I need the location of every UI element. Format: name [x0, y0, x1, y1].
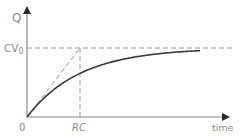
- origin-label: 0: [19, 122, 25, 133]
- charging-curve-diagram: Q CV0 0 RC time: [0, 0, 245, 137]
- cv0-label: CV0: [4, 42, 24, 56]
- rc-label: RC: [72, 122, 86, 133]
- x-axis-label: time: [212, 122, 234, 133]
- y-axis-label: Q: [12, 11, 21, 25]
